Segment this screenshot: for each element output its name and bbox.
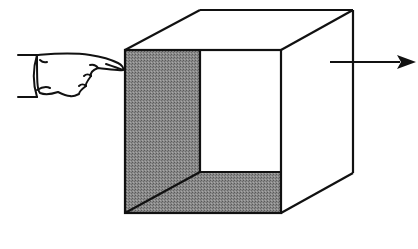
top-right-edge — [281, 10, 353, 50]
diagram-svg — [0, 0, 418, 249]
top-left-edge — [125, 10, 200, 50]
pointing-hand-icon — [18, 53, 123, 97]
diagram-canvas: Open-faced box (cube) viewed in perspect… — [0, 0, 418, 249]
bottom-right-edge — [281, 173, 353, 213]
right-arrow-icon — [330, 55, 416, 69]
